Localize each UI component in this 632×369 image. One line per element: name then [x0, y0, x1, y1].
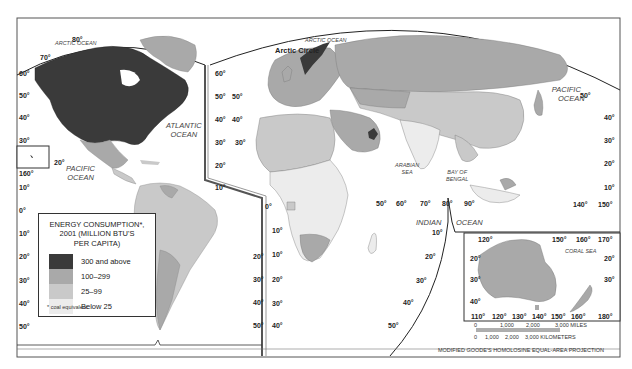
- lat-label: 40°: [272, 322, 283, 329]
- lon-label: 150°: [598, 201, 612, 208]
- lat-label: 60°: [215, 70, 226, 77]
- lon-label: 50°: [376, 200, 387, 207]
- lon-label: 160°: [576, 236, 590, 243]
- lon-label: 160°: [571, 313, 585, 320]
- scale-miles-3000: 3,000 MILES: [555, 322, 587, 328]
- scale-km-3000: 3,000 KILOMETERS: [525, 334, 576, 340]
- lat-label: 30°: [253, 276, 264, 283]
- lon-label: 130°: [512, 313, 526, 320]
- label-indian-ocean: INDIAN OCEAN: [416, 218, 483, 227]
- lat-label: 40°: [19, 114, 30, 121]
- legend-label: 300 and above: [81, 257, 131, 266]
- scale-miles-2000: 2,000: [526, 322, 540, 328]
- legend-note: * coal equivalent: [47, 304, 87, 310]
- russia: [335, 35, 568, 92]
- label-bay-of-bengal: BAY OFBENGAL: [446, 169, 468, 182]
- legend: ENERGY CONSUMPTION*, 2001 (MILLION BTU'S…: [38, 213, 156, 317]
- lon-label: 70°: [420, 200, 431, 207]
- lat-label: 50°: [580, 92, 591, 99]
- lat-label: 50°: [19, 92, 30, 99]
- lat-label: 10°: [432, 229, 443, 236]
- lon-label: 110°: [471, 313, 485, 320]
- projection-note: MODIFIED GOODE'S HOMOLOSINE EQUAL-AREA P…: [438, 347, 604, 353]
- lat-label: 20°: [470, 255, 481, 262]
- lat-label: 0°: [265, 203, 272, 210]
- scale-miles-1000: 1,000: [500, 322, 514, 328]
- lon-label: 140°: [532, 313, 546, 320]
- lat-label: 40°: [215, 116, 226, 123]
- lon-label: 170°: [598, 236, 612, 243]
- lat-label: 50°: [388, 322, 399, 329]
- lat-label: 30°: [604, 137, 615, 144]
- lon-label: 150°: [552, 236, 566, 243]
- lat-label: 0°: [19, 207, 26, 214]
- lat-label: 10°: [272, 251, 283, 258]
- lon-label: 80°: [442, 200, 453, 207]
- lat-label: 40°: [232, 116, 243, 123]
- lat-label: 30°: [19, 137, 30, 144]
- lon-label: 60°: [396, 200, 407, 207]
- legend-swatch: [49, 284, 73, 300]
- legend-item-25-99: 25–99: [49, 284, 149, 299]
- lat-label: 20°: [604, 160, 615, 167]
- lat-label: 50°: [232, 93, 243, 100]
- scale-km-1000: 1,000: [485, 334, 499, 340]
- lat-label: 20°: [604, 255, 615, 262]
- lat-label: 50°: [253, 322, 264, 329]
- lat-label: 10°: [604, 184, 615, 191]
- scale-km-0: 0: [474, 334, 477, 340]
- label-arctic-circle: Arctic Circle: [275, 47, 319, 55]
- scale-miles-0: 0: [474, 322, 477, 328]
- lat-label: 10°: [215, 184, 226, 191]
- lon-label: 80°: [72, 36, 83, 43]
- legend-label: 25–99: [81, 287, 102, 296]
- lat-label: 20°: [54, 159, 65, 166]
- lat-label: 30°: [215, 139, 226, 146]
- lat-label: 20°: [215, 162, 226, 169]
- lat-label: 30°: [604, 276, 615, 283]
- label-arctic-ocean-right: ARCTIC OCEAN: [305, 37, 347, 44]
- lat-label: 40°: [604, 114, 615, 121]
- lat-label: 10°: [272, 227, 283, 234]
- lat-label: 10°: [19, 230, 30, 237]
- legend-swatch: [49, 269, 73, 285]
- lat-label: 20°: [272, 276, 283, 283]
- legend-swatch: [49, 254, 73, 270]
- lat-label: 20°: [425, 253, 436, 260]
- lat-label: 20°: [253, 253, 264, 260]
- label-pacific-ocean-left: PACIFICOCEAN: [66, 164, 95, 182]
- lat-label: 40°: [253, 299, 264, 306]
- lat-label: 50°: [19, 323, 30, 330]
- lat-label: 10°: [19, 184, 30, 191]
- lat-label: 40°: [470, 298, 481, 305]
- lat-label: 50°: [215, 93, 226, 100]
- label-coral-sea: CORAL SEA: [565, 248, 596, 255]
- legend-title: ENERGY CONSUMPTION*, 2001 (MILLION BTU'S…: [39, 220, 155, 248]
- lat-label: 40°: [19, 300, 30, 307]
- lon-label: 180°: [598, 313, 612, 320]
- lon-label: 150°: [551, 313, 565, 320]
- hawaii-inset: [17, 146, 49, 168]
- lat-label: 30°: [235, 139, 246, 146]
- scale-km-2000: 2,000: [505, 334, 519, 340]
- lat-label: 30°: [19, 277, 30, 284]
- lat-label: 30°: [470, 276, 481, 283]
- lat-label: 20°: [19, 253, 30, 260]
- lon-label: 90°: [464, 200, 475, 207]
- lat-label: 30°: [272, 300, 283, 307]
- lat-label: 40°: [403, 299, 414, 306]
- lat-label: 60°: [19, 70, 30, 77]
- legend-item-300-plus: 300 and above: [49, 254, 149, 269]
- lon-label: 120°: [478, 236, 492, 243]
- lon-label: 160°: [19, 170, 33, 177]
- label-atlantic-ocean: ATLANTICOCEAN: [166, 121, 202, 139]
- lon-label: 140°: [573, 201, 587, 208]
- lat-label: 30°: [416, 277, 427, 284]
- legend-item-100-299: 100–299: [49, 269, 149, 284]
- lon-label: 120°: [492, 313, 506, 320]
- lon-label: 70°: [40, 54, 51, 61]
- legend-label: 100–299: [81, 272, 110, 281]
- label-arabian-sea: ARABIANSEA: [395, 162, 419, 175]
